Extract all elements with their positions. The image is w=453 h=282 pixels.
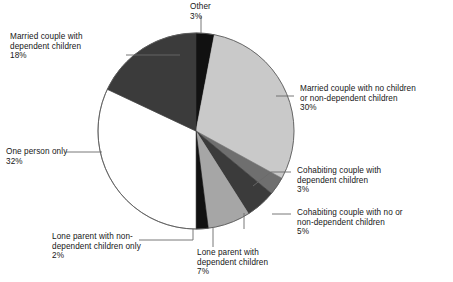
slice-label-lone-parent-non-dep: Lone parent with non- dependent children… (52, 232, 141, 261)
slice-label-lone-parent-dependent-percent: 7% (197, 267, 268, 277)
slice-label-lone-parent-non-dep-percent: 2% (52, 251, 141, 261)
slice-label-other: Other 3% (190, 2, 211, 21)
slice-label-married-no-children: Married couple with no children or non-d… (300, 84, 416, 113)
leader-line-lone-parent-non-dep (139, 229, 193, 240)
slice-label-lone-parent-non-dep-line2: dependent children only (52, 242, 141, 252)
slice-label-lone-parent-dependent-line2: dependent children (197, 258, 268, 268)
slice-label-other-line1: Other (190, 2, 211, 12)
slice-label-lone-parent-dependent-line1: Lone parent with (197, 248, 268, 258)
slice-label-cohabiting-dependent: Cohabiting couple with dependent childre… (297, 166, 381, 195)
slice-label-cohabiting-no-children-line1: Cohabiting couple with no or (297, 208, 403, 218)
slice-label-lone-parent-non-dep-line1: Lone parent with non- (52, 232, 141, 242)
slice-label-married-dependent: Married couple with dependent children 1… (10, 32, 83, 61)
slice-label-lone-parent-dependent: Lone parent with dependent children 7% (197, 248, 268, 277)
slice-label-married-dependent-line2: dependent children (10, 42, 83, 52)
slice-label-cohabiting-no-children-percent: 5% (297, 227, 403, 237)
slice-label-married-dependent-line1: Married couple with (10, 32, 83, 42)
slice-label-cohabiting-no-children: Cohabiting couple with no or non-depende… (297, 208, 403, 237)
slice-label-cohabiting-dependent-line2: dependent children (297, 176, 381, 186)
pie-chart-figure: Other 3% Married couple with dependent c… (0, 0, 453, 282)
slice-label-one-person-only-line1: One person only (6, 147, 67, 157)
slice-label-married-no-children-line2: or non-dependent children (300, 94, 416, 104)
slice-label-married-no-children-line1: Married couple with no children (300, 84, 416, 94)
slice-label-one-person-only: One person only 32% (6, 147, 67, 166)
pie-slice-group (98, 33, 294, 229)
slice-label-cohabiting-no-children-line2: non-dependent children (297, 218, 403, 228)
slice-label-married-dependent-percent: 18% (10, 51, 83, 61)
slice-label-one-person-only-percent: 32% (6, 157, 67, 167)
slice-label-cohabiting-dependent-percent: 3% (297, 185, 381, 195)
slice-label-cohabiting-dependent-line1: Cohabiting couple with (297, 166, 381, 176)
slice-label-other-percent: 3% (190, 12, 211, 22)
slice-label-married-no-children-percent: 30% (300, 103, 416, 113)
